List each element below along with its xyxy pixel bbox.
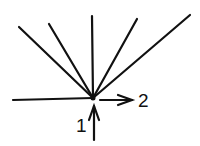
label-2: 2 bbox=[138, 91, 149, 110]
surface-line bbox=[13, 98, 93, 100]
ray-4 bbox=[93, 19, 137, 98]
ray-3 bbox=[92, 16, 93, 98]
label-1: 1 bbox=[76, 116, 87, 135]
diagram: 2 1 bbox=[0, 0, 200, 146]
ray-diagram bbox=[0, 0, 200, 146]
ray-5 bbox=[93, 15, 190, 98]
